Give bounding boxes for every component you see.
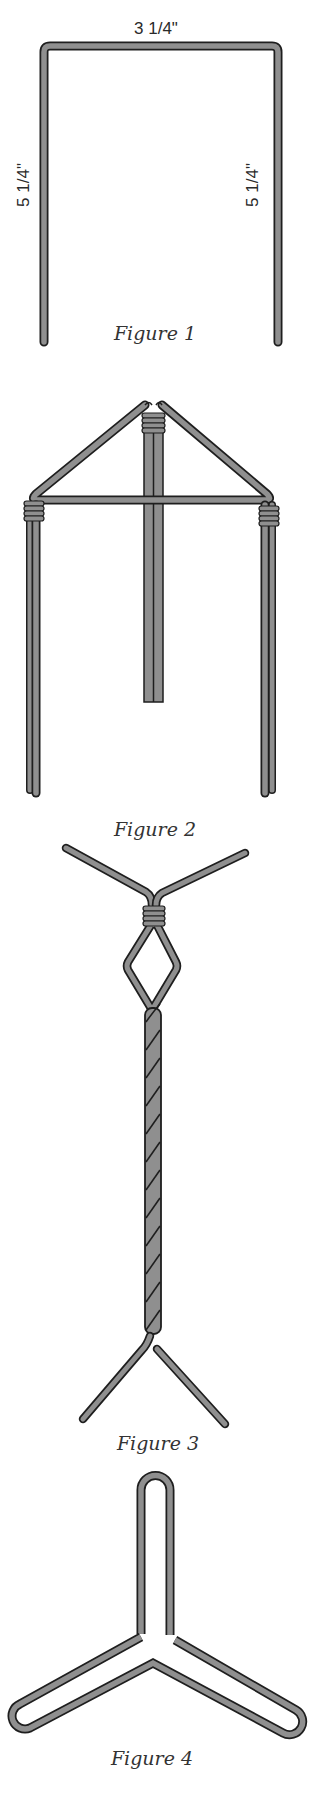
figure-1: 3 1/4" 5 1/4" 5 1/4" Figure 1 <box>14 19 278 344</box>
left-dimension-label: 5 1/4" <box>14 163 33 207</box>
figure-2-caption: Figure 2 <box>113 818 196 840</box>
bottom-arms-wire <box>83 1336 225 1424</box>
top-dimension-label: 3 1/4" <box>134 19 178 38</box>
top-arms-wire <box>66 848 245 905</box>
wire-diagram-canvas: 3 1/4" 5 1/4" 5 1/4" Figure 1 <box>0 0 310 1799</box>
left-corner-coil-wrap <box>24 501 44 521</box>
right-leg-wire <box>265 505 272 793</box>
diamond-loop-wire <box>127 925 177 1010</box>
apex-coil-wrap <box>142 413 165 433</box>
right-corner-coil-wrap <box>259 506 279 526</box>
right-dimension-label: 5 1/4" <box>243 163 262 207</box>
twisted-wire-stem <box>145 1004 161 1334</box>
figure-2: Figure 2 <box>24 403 279 841</box>
neck-coil-wrap <box>143 906 165 926</box>
figure-3: Figure 3 <box>66 848 245 1454</box>
left-leg-wire <box>30 505 36 793</box>
center-post-wire <box>144 418 163 702</box>
figure-4-caption: Figure 4 <box>110 1747 193 1769</box>
figure-4: Figure 4 <box>12 1476 303 1770</box>
tri-loop-wire <box>12 1476 303 1735</box>
figure-1-caption: Figure 1 <box>113 322 196 344</box>
figure-3-caption: Figure 3 <box>116 1432 199 1454</box>
